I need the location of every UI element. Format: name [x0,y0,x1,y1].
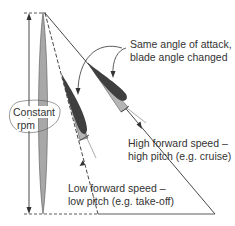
leader-to-high-airfoil [113,48,126,75]
constant-label-line1: Constant [13,106,55,118]
high-pitch-airfoil [88,63,146,123]
same-aoa-label-line2: blade angle changed [130,51,228,63]
same-aoa-label-line1: Same angle of attack, [130,38,232,50]
propeller-pitch-diagram: Constant rpm Same angle of attack, blade… [0,0,235,226]
low-pitch-airfoil [62,75,96,158]
rpm-arrow-head-top [27,13,32,20]
low-speed-label-line2: low pitch (e.g. take-off) [68,195,174,207]
low-speed-label-line1: Low forward speed – [68,182,165,194]
high-speed-label-line2: high pitch (e.g. cruise) [128,150,231,162]
high-speed-label-line1: High forward speed – [128,137,228,149]
rpm-arrow-head-bottom [27,207,32,214]
constant-label-line2: rpm [17,119,35,131]
